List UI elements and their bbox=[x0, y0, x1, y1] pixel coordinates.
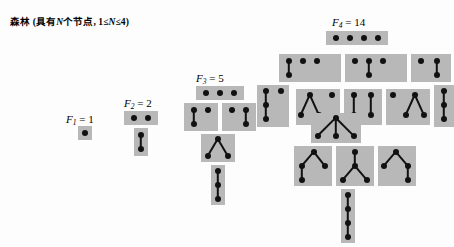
tree-node bbox=[215, 168, 221, 174]
tree-node bbox=[441, 102, 447, 108]
group-label-f1: F1 = 1 bbox=[66, 113, 94, 127]
forest-4-9 bbox=[434, 85, 454, 127]
tree-node bbox=[298, 112, 304, 118]
forest-2-1 bbox=[124, 111, 158, 125]
tree-node bbox=[434, 58, 440, 64]
group-label-f2: F2 = 2 bbox=[124, 97, 152, 111]
tree-node bbox=[311, 149, 317, 155]
tree-node bbox=[299, 163, 305, 169]
forest-4-3 bbox=[345, 54, 407, 82]
tree-node bbox=[225, 153, 231, 159]
tree-node bbox=[215, 136, 221, 142]
forest-2-2 bbox=[134, 128, 148, 156]
group-label-f4: F4 = 14 bbox=[332, 16, 365, 30]
tree-node bbox=[333, 35, 339, 41]
forest-4-4 bbox=[411, 54, 451, 82]
group-label-f3: F3 = 5 bbox=[196, 72, 224, 86]
tree-node bbox=[299, 177, 305, 183]
tree-node bbox=[405, 163, 411, 169]
tree-node bbox=[418, 58, 424, 64]
tree-node bbox=[345, 192, 351, 198]
tree-node bbox=[286, 58, 292, 64]
tree-node bbox=[340, 177, 346, 183]
tree-node bbox=[315, 133, 321, 139]
tree-node bbox=[393, 149, 399, 155]
forest-3-5 bbox=[211, 165, 225, 205]
tree-node bbox=[366, 58, 372, 64]
tree-node bbox=[215, 196, 221, 202]
forest-4-14 bbox=[341, 189, 355, 243]
tree-node bbox=[375, 35, 381, 41]
tree-node bbox=[203, 90, 209, 96]
forest-4-10 bbox=[311, 113, 361, 143]
tree-node bbox=[403, 112, 409, 118]
tree-node bbox=[333, 133, 339, 139]
forest-4-12 bbox=[336, 146, 374, 186]
tree-node bbox=[217, 90, 223, 96]
tree-node bbox=[368, 112, 374, 118]
forest-4-8 bbox=[386, 89, 430, 125]
forest-3-2 bbox=[184, 103, 218, 131]
tree-node bbox=[191, 121, 197, 127]
forest-3-3 bbox=[222, 103, 256, 131]
forest-3-4 bbox=[201, 134, 235, 162]
tree-node bbox=[215, 182, 221, 188]
tree-node bbox=[345, 220, 351, 226]
tree-node bbox=[229, 107, 235, 113]
tree-node bbox=[345, 206, 351, 212]
tree-node bbox=[314, 58, 320, 64]
tree-node bbox=[322, 163, 328, 169]
tree-node bbox=[434, 72, 440, 78]
tree-node bbox=[138, 132, 144, 138]
tree-node bbox=[352, 58, 358, 64]
forest-3-1 bbox=[196, 86, 244, 100]
tree-node bbox=[205, 153, 211, 159]
forest-4-1 bbox=[326, 31, 388, 45]
tree-node bbox=[366, 72, 372, 78]
tree-node bbox=[300, 58, 306, 64]
tree-node bbox=[381, 163, 387, 169]
tree-node bbox=[243, 121, 249, 127]
tree-node bbox=[364, 177, 370, 183]
forest-1-1 bbox=[78, 126, 92, 140]
forest-4-2 bbox=[279, 54, 341, 82]
tree-node bbox=[231, 90, 237, 96]
tree-node bbox=[278, 88, 284, 94]
tree-node bbox=[333, 115, 339, 121]
tree-node bbox=[351, 92, 357, 98]
tree-node bbox=[82, 130, 88, 136]
tree-node bbox=[351, 133, 357, 139]
tree-node bbox=[421, 112, 427, 118]
tree-node bbox=[145, 115, 151, 121]
tree-node bbox=[347, 35, 353, 41]
tree-node bbox=[191, 107, 197, 113]
tree-node bbox=[307, 92, 313, 98]
forest-4-5 bbox=[257, 85, 289, 127]
figure-caption: 森林 (具有N个节点, 1≤N≤4) bbox=[10, 14, 129, 28]
tree-node bbox=[286, 72, 292, 78]
tree-node bbox=[441, 116, 447, 122]
tree-node bbox=[205, 107, 211, 113]
tree-node bbox=[441, 88, 447, 94]
tree-node bbox=[368, 92, 374, 98]
forest-enumeration-figure: 森林 (具有N个节点, 1≤N≤4) F1 = 1F2 = 2F3 = 5F4 … bbox=[0, 0, 454, 247]
tree-node bbox=[263, 116, 269, 122]
tree-node bbox=[131, 115, 137, 121]
tree-node bbox=[263, 102, 269, 108]
tree-node bbox=[412, 92, 418, 98]
tree-node bbox=[361, 35, 367, 41]
forest-4-13 bbox=[378, 146, 416, 186]
tree-node bbox=[329, 92, 335, 98]
tree-node bbox=[345, 234, 351, 240]
tree-node bbox=[263, 88, 269, 94]
forest-4-11 bbox=[294, 146, 332, 186]
tree-node bbox=[405, 177, 411, 183]
tree-node bbox=[380, 58, 386, 64]
tree-node bbox=[243, 107, 249, 113]
tree-node bbox=[352, 163, 358, 169]
tree-node bbox=[352, 149, 358, 155]
tree-node bbox=[138, 146, 144, 152]
tree-node bbox=[390, 92, 396, 98]
